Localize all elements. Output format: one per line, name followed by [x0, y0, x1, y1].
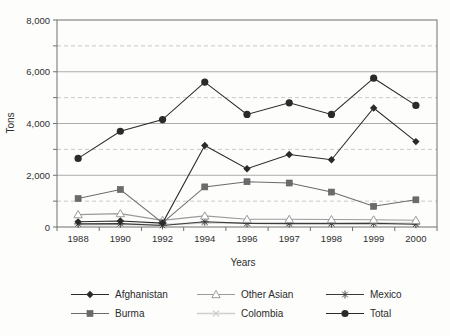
y-tick-label: 6,000 — [26, 66, 50, 77]
marker-circle — [243, 111, 250, 118]
marker-square — [413, 197, 419, 203]
chart-figure: 02,0004,0006,0008,0001988199019921994199… — [0, 0, 450, 336]
marker-circle — [370, 75, 377, 82]
marker-square — [202, 184, 208, 190]
marker-square — [328, 189, 334, 195]
marker-square — [75, 196, 81, 202]
mexico-asterisk-marker-icon — [325, 289, 365, 300]
x-tick-label: 1990 — [110, 233, 131, 244]
legend-item-other-asian: Other Asian — [196, 288, 293, 300]
x-tick-label: 2000 — [405, 233, 426, 244]
marker-asterisk — [341, 290, 349, 298]
legend-column-2: Other Asian Colombia — [196, 288, 293, 319]
marker-square — [117, 186, 123, 192]
legend-item-burma: Burma — [70, 307, 168, 319]
marker-diamond — [86, 290, 93, 297]
marker-circle — [328, 111, 335, 118]
marker-circle — [75, 155, 82, 162]
marker-circle — [159, 116, 166, 123]
legend-item-colombia: Colombia — [196, 307, 293, 319]
marker-diamond — [201, 142, 208, 149]
marker-diamond — [286, 151, 293, 158]
legend-label-other-asian: Other Asian — [241, 289, 293, 300]
marker-square — [286, 180, 292, 186]
marker-circle — [341, 309, 348, 316]
x-tick-label: 1988 — [68, 233, 89, 244]
colombia-x-marker-icon — [196, 308, 236, 319]
y-axis-title: Tons — [5, 112, 16, 133]
x-tick-label: 1997 — [279, 233, 300, 244]
y-tick-label: 4,000 — [26, 118, 50, 129]
legend-column-3: Mexico Total — [325, 288, 402, 319]
marker-circle — [201, 79, 208, 86]
x-tick-label: 1999 — [363, 233, 384, 244]
afghanistan-diamond-marker-icon — [70, 289, 110, 300]
x-tick-label: 1996 — [236, 233, 257, 244]
total-circle-marker-icon — [325, 308, 365, 319]
legend-label-total: Total — [370, 308, 391, 319]
legend: Afghanistan Burma Other Asian Colombia M… — [0, 288, 450, 334]
x-tick-label: 1992 — [152, 233, 173, 244]
legend-column-1: Afghanistan Burma — [70, 288, 168, 319]
legend-item-total: Total — [325, 307, 402, 319]
marker-circle — [412, 102, 419, 109]
legend-label-mexico: Mexico — [370, 289, 402, 300]
marker-square — [87, 310, 93, 316]
marker-diamond — [243, 165, 250, 172]
x-axis-title: Years — [230, 257, 255, 268]
line-chart: 02,0004,0006,0008,0001988199019921994199… — [0, 0, 450, 272]
legend-item-afghanistan: Afghanistan — [70, 288, 168, 300]
marker-triangle-open — [201, 212, 209, 219]
y-tick-label: 0 — [45, 222, 50, 233]
marker-circle — [117, 128, 124, 135]
legend-label-colombia: Colombia — [241, 308, 283, 319]
y-tick-label: 8,000 — [26, 15, 50, 26]
marker-square — [244, 179, 250, 185]
y-tick-label: 2,000 — [26, 170, 50, 181]
x-tick-label: 1994 — [194, 233, 215, 244]
plot-area: 02,0004,0006,0008,0001988199019921994199… — [26, 15, 437, 245]
legend-label-burma: Burma — [115, 308, 144, 319]
legend-item-mexico: Mexico — [325, 288, 402, 300]
marker-circle — [286, 99, 293, 106]
burma-square-marker-icon — [70, 308, 110, 319]
legend-label-afghanistan: Afghanistan — [115, 289, 168, 300]
x-tick-label: 1998 — [321, 233, 342, 244]
marker-square — [371, 203, 377, 209]
other-asian-triangle-marker-icon — [196, 289, 236, 300]
